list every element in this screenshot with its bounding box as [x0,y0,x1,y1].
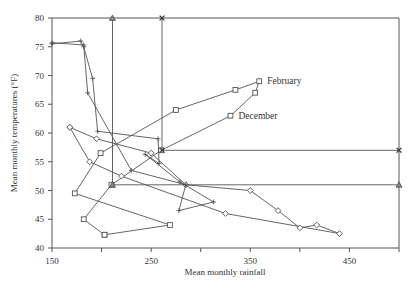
square-marker-icon [98,151,103,156]
x-axis-label: Mean monthly rainfall [185,267,266,277]
plus-series [50,39,216,213]
annotations: FebruaryDecember [238,76,301,121]
square-marker-icon [233,87,238,92]
diamond-marker-icon [223,211,229,217]
square-marker-icon [228,113,233,118]
square-series [72,79,261,237]
y-tick-label: 50 [35,186,45,196]
square-marker-icon [81,217,86,222]
chart: 150250350450404550556065707580 FebruaryD… [0,0,417,292]
annotation-label: December [238,111,278,121]
square-marker-icon [168,223,173,228]
square-marker-icon [253,90,258,95]
plus-marker-icon [78,39,83,44]
diamond-marker-icon [337,231,343,237]
y-tick-label: 65 [35,99,45,109]
plus-marker-icon [85,90,90,95]
y-tick-label: 75 [35,42,45,52]
y-axis-label: Mean monthly temperatures (°F) [9,74,19,192]
square-marker-icon [257,79,262,84]
diamond-marker-icon [94,136,100,142]
y-tick-label: 80 [35,13,45,23]
y-tick-label: 55 [35,157,45,167]
square-series-line [75,81,259,235]
series-group [50,15,402,237]
plus-marker-icon [90,76,95,81]
plus-marker-icon [177,208,182,213]
square-marker-icon [174,108,179,113]
diamond-marker-icon [87,159,93,165]
x-tick-label: 450 [343,256,357,266]
y-tick-label: 70 [35,71,45,81]
square-marker-icon [72,191,77,196]
plus-marker-icon [156,136,161,141]
square-marker-icon [102,232,107,237]
y-tick-label: 60 [35,128,45,138]
diamond-marker-icon [314,222,320,228]
axes: 150250350450404550556065707580 [35,13,399,266]
plus-marker-icon [211,200,216,205]
triangle-series-line [113,18,400,185]
x-tick-label: 250 [144,256,158,266]
diamond-series [67,124,342,236]
y-tick-label: 40 [35,243,45,253]
y-tick-label: 45 [35,214,45,224]
diamond-marker-icon [67,124,73,130]
diamond-marker-icon [247,188,253,194]
diamond-series-line [70,127,340,233]
annotation-label: February [267,76,302,86]
x-tick-label: 150 [45,256,59,266]
diamond-marker-icon [119,173,125,179]
plus-marker-icon [95,129,100,134]
plus-marker-icon [50,40,55,45]
x-tick-label: 350 [244,256,258,266]
